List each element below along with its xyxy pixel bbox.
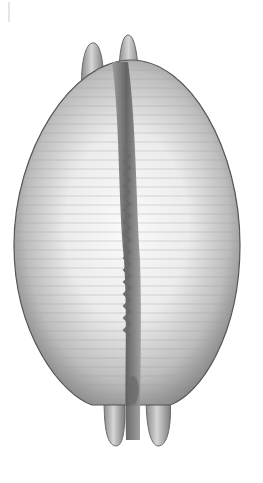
cowrie-shell-illustration (0, 0, 263, 483)
corner-mark (8, 2, 10, 22)
photo-canvas (0, 0, 263, 483)
